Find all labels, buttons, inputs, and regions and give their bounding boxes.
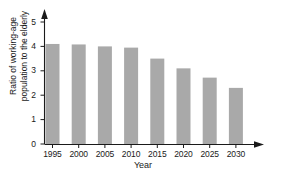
bars-group [46, 44, 243, 144]
y-axis-title: Ratio of working-age population to the e… [8, 0, 32, 117]
y-axis-ticks [41, 22, 45, 144]
bar [203, 78, 217, 144]
y-axis-title-line-1: Ratio of working-age [8, 0, 19, 117]
bar-chart: 012345 19952000200520102015202020252030 … [0, 0, 286, 176]
x-axis-arrowhead [254, 141, 264, 148]
y-axis-tick-label: 0 [22, 139, 36, 149]
bar [177, 68, 191, 144]
y-axis-title-line-2: population to the elderly [19, 0, 30, 117]
bar [98, 46, 112, 144]
y-axis-arrowhead [41, 9, 48, 19]
bar [124, 48, 138, 144]
x-axis-title: Year [113, 160, 173, 170]
bar [150, 59, 164, 144]
bar [229, 88, 243, 144]
x-axis-tick-label: 2030 [221, 149, 251, 159]
bar [46, 44, 60, 144]
bar [72, 44, 86, 144]
